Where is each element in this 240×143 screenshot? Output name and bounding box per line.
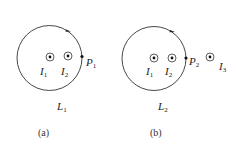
current-label-i1: I1 [40,66,47,79]
current-label-i3: I3 [219,61,226,74]
point-p2-dot [184,56,187,59]
diagram-canvas [0,0,240,143]
loop-label-l1: L1 [57,101,67,114]
current-i3-out-of-page-icon [206,53,214,61]
current-i2-out-of-page-icon [168,54,176,62]
current-label-i2: I2 [165,66,172,79]
point-p1-dot [80,55,83,58]
loop-direction-arrow-icon [170,30,176,32]
loop-label-l2: L2 [158,101,168,114]
current-label-i1: I1 [146,66,153,79]
current-label-i2: I2 [61,66,68,79]
point-label-p1: P1 [86,57,96,70]
figure-a [17,26,84,91]
current-i1-out-of-page-icon [46,53,54,61]
caption-b: (b) [150,128,162,138]
loop-direction-arrow-icon [66,30,72,32]
current-i2-out-of-page-icon [64,52,72,60]
caption-a: (a) [38,128,49,138]
point-label-p2: P2 [189,56,199,69]
current-i1-out-of-page-icon [150,54,158,62]
figure-b [122,27,214,91]
